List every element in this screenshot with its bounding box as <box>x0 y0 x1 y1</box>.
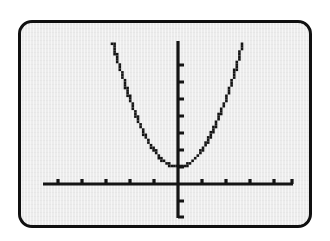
calculator-screen <box>18 20 312 228</box>
parabola-plot <box>21 23 309 225</box>
